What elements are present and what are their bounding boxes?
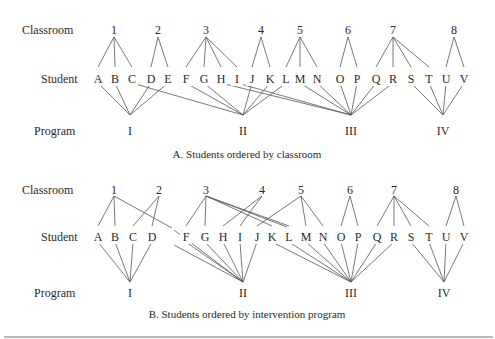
edge-student-C-program-I <box>130 242 133 282</box>
edge-classroom-7-student-Q <box>377 196 394 226</box>
edge-classroom-3-student-K <box>206 196 272 226</box>
student-node-M: M <box>295 72 306 86</box>
edge-classroom-7-student-S <box>393 37 411 67</box>
edge-student-I-program-II <box>240 242 243 282</box>
panel-a-classroom-order: ClassroomStudentProgram12345678ABCDEFGHI… <box>22 23 470 160</box>
edge-student-S-program-IV <box>411 83 443 115</box>
edge-classroom-5-student-J <box>257 196 301 226</box>
panel-b-program-order: ClassroomStudentProgram12345678ABCDFGHIJ… <box>22 183 470 320</box>
student-node-N: N <box>313 72 322 86</box>
panel-caption: B. Students ordered by intervention prog… <box>149 308 346 320</box>
student-node-J: J <box>255 230 260 244</box>
edge-student-F-program-II <box>186 242 243 282</box>
edge-student-U-program-IV <box>443 83 446 115</box>
student-node-H: H <box>217 72 226 86</box>
edge-classroom-6-student-O <box>340 37 348 67</box>
classroom-node-8: 8 <box>453 183 459 197</box>
student-node-A: A <box>94 230 103 244</box>
edge-student-J-program-II <box>243 242 257 282</box>
student-node-U: U <box>442 230 451 244</box>
edge-classroom-8-student-U <box>446 37 454 67</box>
edge-student-U-program-IV <box>444 242 446 282</box>
classroom-node-5: 5 <box>298 183 304 197</box>
edge-classroom-7-student-T <box>394 196 429 226</box>
program-node-III: III <box>345 286 357 300</box>
program-node-III: III <box>345 124 357 138</box>
student-node-D: D <box>148 230 157 244</box>
student-node-B: B <box>111 72 119 86</box>
edge-classroom-4-student-I <box>240 196 262 226</box>
program-node-I: I <box>128 286 132 300</box>
student-node-Q: Q <box>373 230 382 244</box>
row-label-student: Student <box>41 230 78 244</box>
edge-classroom-6-student-P <box>348 37 357 67</box>
student-node-B: B <box>111 230 119 244</box>
edge-student-S-program-IV <box>411 242 444 282</box>
edge-classroom-2-student-E <box>158 37 168 67</box>
edge-student-M-program-III <box>300 83 351 115</box>
edge-classroom-6-student-O <box>341 196 350 226</box>
edge-classroom-5-student-N <box>300 37 317 67</box>
program-node-II: II <box>239 286 247 300</box>
student-node-K: K <box>268 230 277 244</box>
student-node-T: T <box>425 230 433 244</box>
classroom-node-3: 3 <box>203 183 209 197</box>
edge-classroom-6-student-P <box>350 196 358 226</box>
student-node-D: D <box>147 72 156 86</box>
classroom-node-6: 6 <box>345 23 351 37</box>
edge-classroom-3-student-G <box>204 37 206 67</box>
student-node-U: U <box>442 72 451 86</box>
classroom-node-6: 6 <box>347 183 353 197</box>
edge-student-B-program-I <box>115 242 130 282</box>
edge-student-O-program-III <box>341 242 351 282</box>
edge-classroom-3-student-F <box>186 37 206 67</box>
program-node-II: II <box>239 124 247 138</box>
student-node-F: F <box>183 230 190 244</box>
edge-student-H-program-III <box>221 83 351 115</box>
edge-classroom-8-student-V <box>456 196 464 226</box>
row-label-program: Program <box>34 286 76 300</box>
edge-classroom-1-student-A <box>98 37 114 67</box>
student-node-I: I <box>238 230 242 244</box>
student-node-Q: Q <box>372 72 381 86</box>
edge-student-G-program-II <box>204 83 243 115</box>
edge-classroom-7-student-S <box>394 196 411 226</box>
edge-student-R-program-III <box>351 242 394 282</box>
classroom-node-1: 1 <box>111 183 117 197</box>
edge-student-K-program-II <box>243 83 270 115</box>
student-node-L: L <box>285 230 292 244</box>
edge-student-K-program-III <box>272 242 351 282</box>
classroom-node-3: 3 <box>203 23 209 37</box>
edge-classroom-7-student-Q <box>376 37 393 67</box>
classroom-node-5: 5 <box>297 23 303 37</box>
student-node-V: V <box>460 72 469 86</box>
classroom-node-7: 7 <box>391 183 397 197</box>
row-label-classroom: Classroom <box>22 23 74 37</box>
edge-student-M-program-III <box>306 242 351 282</box>
edge-classroom-8-student-V <box>454 37 464 67</box>
edge-classroom-1-student-A <box>98 196 114 226</box>
student-node-P: P <box>354 72 361 86</box>
edge-classroom-1-student-B <box>114 37 115 67</box>
edge-classroom-5-student-M <box>301 196 306 226</box>
student-node-H: H <box>219 230 228 244</box>
student-node-F: F <box>183 72 190 86</box>
edge-student-F-program-II <box>186 83 243 115</box>
edge-student-A-program-I <box>98 242 130 282</box>
edge-student-D-program-I <box>130 242 152 282</box>
student-node-J: J <box>250 72 255 86</box>
program-node-IV: IV <box>438 286 451 300</box>
edge-classroom-1-student-E* <box>114 196 172 228</box>
classroom-student-edges <box>98 196 464 228</box>
program-node-I: I <box>128 124 132 138</box>
edge-student-B-program-I <box>115 83 130 115</box>
edge-classroom-5-student-N <box>301 196 323 226</box>
row-label-classroom: Classroom <box>22 183 74 197</box>
classroom-node-7: 7 <box>390 23 396 37</box>
edge-classroom-3-student-I <box>206 37 237 67</box>
edge-student-L-program-II <box>243 83 286 115</box>
student-node-S: S <box>408 230 415 244</box>
row-label-student: Student <box>41 72 78 86</box>
edge-student-H-program-II <box>223 242 243 282</box>
edge-classroom-1-student-B <box>114 196 115 226</box>
